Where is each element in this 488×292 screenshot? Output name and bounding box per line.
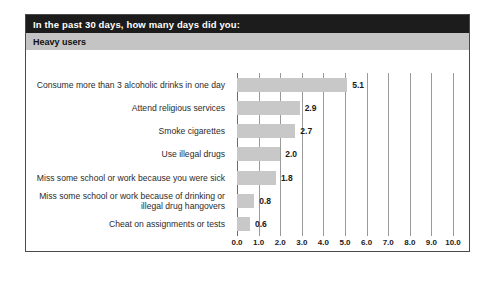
x-tick-label: 8.0 <box>404 238 415 247</box>
category-label-text: Use illegal drugs <box>161 149 231 159</box>
x-tick-label: 4.0 <box>318 238 329 247</box>
bar <box>237 78 347 92</box>
bar-series: 5.12.92.72.01.80.80.6 <box>237 73 453 236</box>
x-axis-tick-labels: 0.01.02.03.04.05.06.07.08.09.010.0 <box>237 238 453 250</box>
bar-value-label: 0.8 <box>259 196 271 206</box>
x-tick-label: 10.0 <box>445 238 461 247</box>
category-label-text: Miss some school or work because of drin… <box>26 191 231 211</box>
bar <box>237 101 300 115</box>
category-label-column: Consume more than 3 alcoholic drinks in … <box>26 73 231 236</box>
bar-value-label: 0.6 <box>255 219 267 229</box>
x-tick-label: 2.0 <box>275 238 286 247</box>
panel-title-band: In the past 30 days, how many days did y… <box>26 15 469 33</box>
bar-row: 0.6 <box>237 213 453 236</box>
bar-row: 5.1 <box>237 73 453 96</box>
bar-value-label: 2.9 <box>305 103 317 113</box>
panel-subtitle: Heavy users <box>26 37 86 47</box>
x-tick-label: 5.0 <box>339 238 350 247</box>
bar-value-label: 1.8 <box>281 173 293 183</box>
category-label-text: Miss some school or work because you wer… <box>37 173 231 183</box>
bar-row: 2.7 <box>237 120 453 143</box>
category-label-text: Smoke cigarettes <box>159 126 231 136</box>
bar-row: 2.0 <box>237 143 453 166</box>
category-label-text: Cheat on assignments or tests <box>109 219 231 229</box>
x-tick-label: 0.0 <box>231 238 242 247</box>
panel-title-prefix: In the past 30 days, how many <box>33 19 177 30</box>
x-tick-label: 7.0 <box>383 238 394 247</box>
bar <box>237 194 254 208</box>
category-label: Miss some school or work because you wer… <box>26 166 231 189</box>
category-label: Miss some school or work because of drin… <box>26 189 231 212</box>
panel-title-emphasis: days <box>177 19 199 30</box>
x-tick-label: 9.0 <box>426 238 437 247</box>
bar <box>237 124 295 138</box>
bar <box>237 147 280 161</box>
x-tick-label: 6.0 <box>361 238 372 247</box>
panel-title-suffix: did you: <box>199 19 240 30</box>
bar-chart: Consume more than 3 alcoholic drinks in … <box>26 50 469 251</box>
category-label: Cheat on assignments or tests <box>26 213 231 236</box>
chart-page: In the past 30 days, how many days did y… <box>0 0 488 292</box>
bar-value-label: 5.1 <box>352 80 364 90</box>
category-label-text: Consume more than 3 alcoholic drinks in … <box>37 80 231 90</box>
bar-row: 0.8 <box>237 189 453 212</box>
bar-row: 2.9 <box>237 96 453 119</box>
category-label: Smoke cigarettes <box>26 120 231 143</box>
bar <box>237 217 250 231</box>
x-tick-label: 3.0 <box>296 238 307 247</box>
category-label: Attend religious services <box>26 96 231 119</box>
category-label-text: Attend religious services <box>132 103 231 113</box>
bar <box>237 171 276 185</box>
category-label: Consume more than 3 alcoholic drinks in … <box>26 73 231 96</box>
chart-panel: In the past 30 days, how many days did y… <box>25 14 470 252</box>
category-label: Use illegal drugs <box>26 143 231 166</box>
bar-value-label: 2.0 <box>285 149 297 159</box>
panel-subtitle-band: Heavy users <box>26 33 469 50</box>
bar-value-label: 2.7 <box>300 126 312 136</box>
bar-row: 1.8 <box>237 166 453 189</box>
panel-title: In the past 30 days, how many days did y… <box>26 19 240 30</box>
x-tick-label: 1.0 <box>253 238 264 247</box>
gridline-10.0 <box>453 73 454 236</box>
